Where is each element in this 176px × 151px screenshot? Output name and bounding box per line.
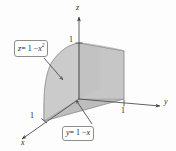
callout-plane-y-var: x xyxy=(87,128,91,137)
figure-3d-solid: z y x 1 1 1 z= 1 −x2 y= 1 −x xyxy=(0,0,176,151)
callout-surface-z: z= 1 −x2 xyxy=(14,40,48,57)
callout-plane-y: y= 1 −x xyxy=(62,126,94,141)
z-axis-tick-1: 1 xyxy=(69,36,73,44)
callout-surface-z-exp: 2 xyxy=(42,42,45,48)
x-axis-tick-1: 1 xyxy=(30,112,34,120)
z-axis-label: z xyxy=(76,4,79,12)
x-axis-label: x xyxy=(21,139,25,147)
y-axis-tick-1: 1 xyxy=(121,107,125,115)
y-axis-label: y xyxy=(164,98,168,106)
callout-surface-z-eq: = 1 − xyxy=(21,44,38,53)
callout-plane-y-eq: = 1 − xyxy=(70,128,87,137)
